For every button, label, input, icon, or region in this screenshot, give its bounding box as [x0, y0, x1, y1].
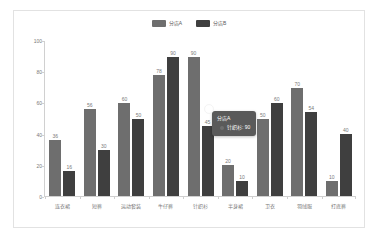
bar-series-b[interactable]: 60 [271, 103, 283, 196]
x-axis-tick-mark [252, 196, 253, 199]
tooltip-row: 针织衫: 90 [217, 124, 250, 131]
bar-value-label: 40 [343, 127, 349, 133]
bar-series-b[interactable]: 90 [167, 57, 179, 197]
x-axis-category-label: 牛仔裤 [158, 203, 173, 209]
bar-value-label: 90 [170, 50, 176, 56]
bar-value-label: 56 [87, 102, 93, 108]
x-axis-category-label: 羽绒服 [297, 203, 312, 209]
bar-series-b[interactable]: 50 [132, 119, 144, 197]
bar-series-b[interactable]: 30 [98, 150, 110, 197]
chart-legend: 分店A 分店B [14, 20, 364, 27]
bar-group: 7054羽绒服 [287, 41, 322, 196]
x-axis-tick-mark [183, 196, 184, 199]
y-axis-tick-label: 20 [18, 163, 42, 169]
bar-value-label: 60 [122, 96, 128, 102]
bar-series-a[interactable]: 70 [291, 88, 303, 197]
x-axis-category-label: 卫衣 [265, 203, 275, 209]
y-axis-tick-label: 100 [18, 38, 42, 44]
x-axis-tick-mark [218, 196, 219, 199]
legend-swatch-series-a [152, 20, 166, 27]
bar-value-label: 45 [205, 119, 211, 125]
bar-series-a[interactable]: 10 [326, 181, 338, 197]
bar-group: 5630短裤 [80, 41, 115, 196]
tooltip-series-dot [220, 126, 224, 130]
bar-series-a[interactable]: 90 [188, 57, 200, 197]
bar-series-b[interactable]: 40 [340, 134, 352, 196]
chart-card: 分店A 分店B 020406080100 3616连衣裙5630短裤6050运动… [13, 10, 365, 228]
bar-group: 5060卫衣 [252, 41, 287, 196]
x-axis-category-label: 短裤 [92, 203, 102, 209]
bar-value-label: 16 [67, 164, 73, 170]
bar-group: 1040打底裤 [322, 41, 357, 196]
bar-series-a[interactable]: 56 [84, 109, 96, 196]
x-axis-category-label: 打底裤 [331, 203, 346, 209]
plot-area: 020406080100 3616连衣裙5630短裤6050运动套装7890牛仔… [44, 41, 356, 197]
bar-value-label: 20 [225, 158, 231, 164]
legend-item-series-a[interactable]: 分店A [152, 20, 182, 27]
legend-label-series-a: 分店A [169, 20, 182, 27]
bar-groups: 3616连衣裙5630短裤6050运动套装7890牛仔裤9045针织衫2010半… [45, 41, 356, 196]
tooltip-value-text: 针织衫: 90 [227, 124, 250, 131]
bar-value-label: 36 [53, 133, 59, 139]
x-axis-category-label: 针织衫 [193, 203, 208, 209]
bar-series-b[interactable]: 10 [236, 181, 248, 197]
legend-swatch-series-b [196, 20, 210, 27]
bar-value-label: 10 [329, 174, 335, 180]
x-axis-tick-mark [355, 196, 356, 199]
bar-series-b[interactable]: 16 [63, 171, 75, 196]
bar-series-a[interactable]: 20 [222, 165, 234, 196]
bar-value-label: 78 [156, 68, 162, 74]
bar-value-label: 10 [239, 174, 245, 180]
bar-series-a[interactable]: 60 [118, 103, 130, 196]
chart-tooltip: 分店A 针织衫: 90 [212, 111, 256, 136]
x-axis-tick-mark [322, 196, 323, 199]
y-axis-tick-mark [41, 103, 44, 104]
y-axis-tick-mark [41, 72, 44, 73]
bar-group: 6050运动套装 [114, 41, 149, 196]
x-axis-tick-mark [149, 196, 150, 199]
y-axis-tick-label: 60 [18, 100, 42, 106]
bar-value-label: 50 [260, 112, 266, 118]
bar-series-b[interactable]: 54 [305, 112, 317, 196]
tooltip-title: 分店A [217, 115, 250, 122]
bar-series-b[interactable]: 45 [202, 126, 214, 196]
bar-value-label: 54 [308, 105, 314, 111]
bar-group: 3616连衣裙 [45, 41, 80, 196]
bar-value-label: 60 [274, 96, 280, 102]
cursor-pointer-marker [204, 104, 214, 114]
y-axis-tick-mark [41, 41, 44, 42]
bar-series-a[interactable]: 78 [153, 75, 165, 196]
legend-label-series-b: 分店B [213, 20, 226, 27]
x-axis-tick-mark [80, 196, 81, 199]
bar-value-label: 50 [136, 112, 142, 118]
x-axis-category-label: 半身裙 [228, 203, 243, 209]
x-axis-tick-mark [114, 196, 115, 199]
y-axis-tick-mark [41, 197, 44, 198]
x-axis-category-label: 运动套装 [121, 203, 141, 209]
legend-item-series-b[interactable]: 分店B [196, 20, 226, 27]
y-axis-tick-label: 40 [18, 132, 42, 138]
bar-series-a[interactable]: 36 [49, 140, 61, 196]
y-axis-tick-label: 0 [18, 194, 42, 200]
x-axis-tick-mark [287, 196, 288, 199]
bar-value-label: 90 [191, 50, 197, 56]
bar-group: 7890牛仔裤 [149, 41, 184, 196]
bar-series-a[interactable]: 50 [257, 119, 269, 197]
bar-value-label: 30 [101, 143, 107, 149]
y-axis-tick-mark [41, 135, 44, 136]
x-axis-category-label: 连衣裙 [55, 203, 70, 209]
bar-value-label: 70 [294, 81, 300, 87]
x-axis-tick-mark [45, 196, 46, 199]
y-axis-tick-label: 80 [18, 69, 42, 75]
x-axis-line [44, 196, 356, 197]
y-axis-tick-mark [41, 166, 44, 167]
